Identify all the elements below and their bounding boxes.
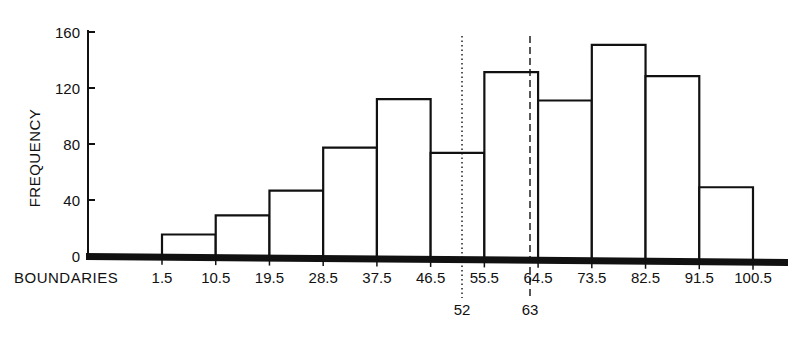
y-tick-label: 0 bbox=[72, 248, 80, 265]
histogram-chart: 04080120160 FREQUENCY 1.510.519.528.537.… bbox=[0, 0, 804, 338]
histogram-bar bbox=[377, 99, 431, 259]
histogram-bar bbox=[269, 191, 323, 258]
x-tick-label: 82.5 bbox=[631, 269, 660, 286]
histogram-bar bbox=[646, 76, 700, 261]
y-tick-label: 40 bbox=[63, 192, 80, 209]
x-tick-label: 73.5 bbox=[577, 269, 606, 286]
x-axis-title: BOUNDARIES bbox=[14, 269, 118, 286]
x-tick-label: 46.5 bbox=[416, 269, 445, 286]
x-tick-label: 28.5 bbox=[309, 269, 338, 286]
histogram-bar bbox=[323, 148, 377, 259]
histogram-bar bbox=[538, 100, 592, 260]
y-axis: 04080120160 FREQUENCY bbox=[26, 24, 95, 265]
y-tick-label: 120 bbox=[55, 80, 80, 97]
y-tick-label: 160 bbox=[55, 24, 80, 41]
histogram-bar bbox=[431, 153, 485, 260]
histogram-bar bbox=[216, 215, 270, 257]
histogram-bar bbox=[162, 234, 216, 257]
histogram-bar bbox=[699, 187, 753, 261]
x-tick-label: 100.5 bbox=[734, 269, 772, 286]
histogram-bar bbox=[484, 72, 538, 260]
x-tick-label: 37.5 bbox=[362, 269, 391, 286]
histogram-bar bbox=[592, 45, 646, 261]
x-tick-label: 55.5 bbox=[470, 269, 499, 286]
x-tick-label: 10.5 bbox=[201, 269, 230, 286]
reference-label-63: 63 bbox=[522, 301, 539, 318]
x-tick-label: 64.5 bbox=[523, 269, 552, 286]
x-tick-label: 19.5 bbox=[255, 269, 284, 286]
histogram-bars bbox=[162, 45, 753, 262]
reference-label-52: 52 bbox=[454, 301, 471, 318]
y-tick-label: 80 bbox=[63, 136, 80, 153]
x-tick-label: 91.5 bbox=[685, 269, 714, 286]
y-axis-title: FREQUENCY bbox=[26, 109, 43, 208]
x-tick-label: 1.5 bbox=[152, 269, 173, 286]
